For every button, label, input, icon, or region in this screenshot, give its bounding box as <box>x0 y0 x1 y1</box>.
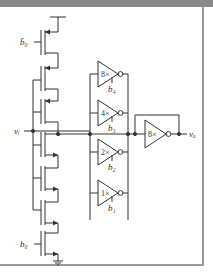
inverter-control-label: b₃ <box>108 123 116 133</box>
inverter-gain-label: 2× <box>101 148 110 157</box>
inverter-gain-label: 4× <box>101 109 110 118</box>
output-inverter-gain-label: 8× <box>148 130 157 139</box>
inverter-control-label: b₂ <box>108 162 116 172</box>
gate-label-bottom: b₀ <box>20 239 28 249</box>
stack-output <box>56 132 136 135</box>
output-label: vₒ <box>189 129 196 139</box>
inverter-control-label: b₁ <box>108 203 116 213</box>
output-inverter <box>135 115 187 148</box>
transistor-stack <box>33 30 58 257</box>
vdd-rail <box>50 17 66 32</box>
circuit-diagram: vᵢ vₒ b̄₀ b₀ 8× b₄ 4× b₃ 2× b₂ 1× b₁ 8× <box>0 0 213 276</box>
input-line <box>24 129 90 132</box>
inverter-gain-label: 1× <box>101 189 110 198</box>
input-label: vᵢ <box>14 126 20 136</box>
inverter-control-label: b₄ <box>108 84 116 94</box>
gate-label-top: b̄₀ <box>20 37 28 47</box>
inverter-gain-label: 8× <box>101 70 110 79</box>
